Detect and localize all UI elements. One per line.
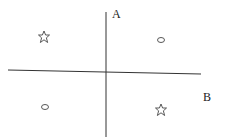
star-icon (156, 104, 167, 116)
axis-label-b: B (203, 91, 211, 103)
star-icon (39, 31, 50, 43)
oval-icon (42, 105, 49, 110)
oval-icon (158, 38, 165, 43)
axis-label-a: A (112, 8, 121, 20)
horizontal-axis (8, 70, 201, 74)
